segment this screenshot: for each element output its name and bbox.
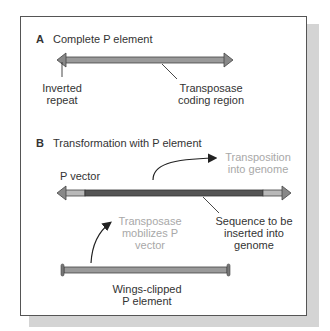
panel-a-letter: A [36,33,44,45]
sequence-label: Sequence to be inserted into genome [212,215,296,251]
coding-region-pointer [162,64,177,79]
wings-clipped-element-bar [61,264,230,276]
transposition-label: Transposition into genome [222,151,294,175]
inverted-repeat-label: Inverted repeat [42,82,82,106]
mobilizes-label: Transposase mobilizes P vector [116,215,184,251]
sequence-pointer [203,197,219,213]
complete-p-element-arrow [57,53,233,67]
panel-b-letter: B [36,137,44,149]
p-vector-arrow [57,186,291,200]
panel-b-title: Transformation with P element [53,137,202,149]
transposase-coding-label: Transposase coding region [172,82,250,106]
panel-a-title: Complete P element [53,33,152,45]
transposition-arrow [153,158,215,180]
mobilizes-arrow [91,223,110,263]
p-vector-label: P vector [60,170,100,182]
wings-clipped-label: Wings-clipped P element [105,283,189,307]
